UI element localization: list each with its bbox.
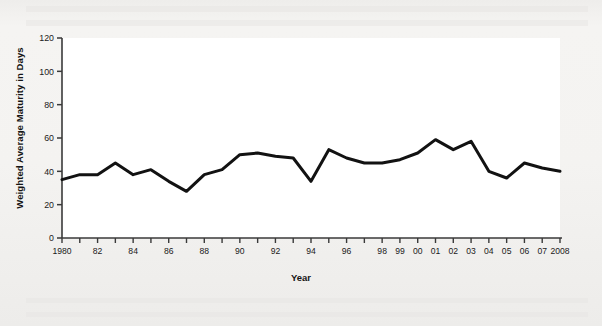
x-tick-label: 90 — [235, 246, 245, 256]
x-tick-label: 99 — [395, 246, 405, 256]
x-tick-label: 82 — [93, 246, 103, 256]
x-tick-label: 06 — [520, 246, 530, 256]
y-tick-label: 80 — [44, 100, 54, 110]
x-tick-label: 94 — [306, 246, 316, 256]
x-tick-label: 02 — [449, 246, 459, 256]
y-tick-label: 120 — [39, 33, 54, 43]
x-tick-label: 86 — [164, 246, 174, 256]
chart-figure: 0204060801001201980828486889092949698990… — [0, 0, 602, 326]
x-tick-label: 84 — [128, 246, 138, 256]
x-axis-title: Year — [0, 272, 602, 283]
y-tick-label: 60 — [44, 133, 54, 143]
x-tick-label: 03 — [466, 246, 476, 256]
x-tick-label: 96 — [342, 246, 352, 256]
x-tick-label: 98 — [377, 246, 387, 256]
y-tick-label: 40 — [44, 167, 54, 177]
y-tick-label: 20 — [44, 200, 54, 210]
x-tick-label: 88 — [200, 246, 210, 256]
x-tick-label: 04 — [484, 246, 494, 256]
y-tick-label: 100 — [39, 67, 54, 77]
x-tick-label: 01 — [431, 246, 441, 256]
x-tick-label: 00 — [413, 246, 423, 256]
x-tick-label: 2008 — [550, 246, 569, 256]
x-tick-label: 07 — [537, 246, 547, 256]
x-tick-label: 05 — [502, 246, 512, 256]
y-axis-title: Weighted Average Maturity in Days — [14, 28, 30, 228]
x-tick-label: 1980 — [52, 246, 71, 256]
y-tick-label: 0 — [49, 233, 54, 243]
x-tick-label: 92 — [271, 246, 281, 256]
data-series-line — [62, 140, 560, 192]
